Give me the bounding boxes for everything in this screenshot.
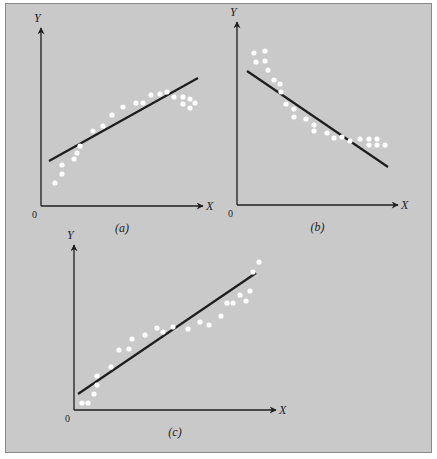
data-point: [129, 336, 134, 341]
data-point: [256, 259, 261, 264]
data-point: [218, 313, 223, 318]
data-point: [291, 106, 296, 111]
plot-c: YX0(c): [65, 228, 287, 439]
data-point: [109, 112, 114, 117]
data-point: [59, 171, 64, 176]
data-point: [59, 162, 64, 167]
data-point: [126, 346, 131, 351]
data-point: [140, 100, 145, 105]
panel-caption: (a): [115, 221, 129, 235]
origin-label: 0: [32, 209, 37, 220]
origin-label: 0: [65, 413, 70, 424]
y-axis-label: Y: [67, 228, 75, 242]
data-point: [79, 400, 84, 405]
panel-caption: (c): [168, 425, 181, 439]
data-point: [331, 135, 336, 140]
data-point: [278, 89, 283, 94]
data-point: [247, 288, 252, 293]
data-point: [180, 94, 185, 99]
data-point: [374, 136, 379, 141]
data-point: [187, 96, 192, 101]
regression-line: [247, 71, 388, 167]
data-point: [90, 128, 95, 133]
data-point: [187, 105, 192, 110]
data-point: [206, 322, 211, 327]
data-point: [71, 156, 76, 161]
data-point: [85, 400, 90, 405]
data-point: [366, 136, 371, 141]
data-point: [120, 104, 125, 109]
data-point: [192, 100, 197, 105]
data-point: [142, 332, 147, 337]
x-axis-label: X: [205, 199, 214, 213]
data-point: [366, 142, 371, 147]
data-point: [160, 329, 165, 334]
data-point: [197, 319, 202, 324]
data-point: [262, 48, 267, 53]
data-point: [324, 130, 329, 135]
panel-caption: (b): [311, 220, 325, 234]
data-point: [339, 134, 344, 139]
data-point: [52, 180, 57, 185]
data-point: [224, 300, 229, 305]
plot-b: YX0(b): [228, 5, 409, 234]
data-point: [265, 67, 270, 72]
scatter-figure: YX0(a) YX0(b) YX0(c): [0, 0, 437, 459]
data-point: [357, 136, 362, 141]
data-point: [133, 100, 138, 105]
regression-line: [49, 78, 198, 161]
y-axis-label: Y: [230, 5, 238, 19]
data-point: [262, 58, 267, 63]
x-axis-label: X: [400, 198, 409, 212]
data-point: [374, 142, 379, 147]
data-point: [253, 59, 258, 64]
data-point: [250, 269, 255, 274]
data-point: [347, 138, 352, 143]
data-point: [180, 101, 185, 106]
data-point: [157, 91, 162, 96]
data-point: [251, 50, 256, 55]
data-point: [100, 123, 105, 128]
x-axis-label: X: [278, 403, 287, 417]
data-point: [243, 298, 248, 303]
data-point: [271, 77, 276, 82]
data-point: [185, 326, 190, 331]
data-point: [283, 101, 288, 106]
data-point: [94, 373, 99, 378]
data-point: [303, 116, 308, 121]
y-axis-label: Y: [34, 11, 42, 25]
data-point: [148, 92, 153, 97]
data-point: [291, 114, 296, 119]
data-point: [116, 347, 121, 352]
data-point: [74, 150, 79, 155]
data-point: [77, 143, 82, 148]
data-point: [170, 324, 175, 329]
data-point: [230, 300, 235, 305]
data-point: [108, 364, 113, 369]
data-point: [311, 122, 316, 127]
origin-label: 0: [228, 208, 233, 219]
data-point: [91, 391, 96, 396]
plot-a: YX0(a): [32, 11, 214, 235]
data-point: [94, 382, 99, 387]
regression-line: [78, 273, 256, 394]
data-point: [164, 89, 169, 94]
data-point: [277, 81, 282, 86]
data-point: [154, 325, 159, 330]
data-point: [171, 94, 176, 99]
data-point: [382, 142, 387, 147]
data-point: [237, 292, 242, 297]
data-point: [311, 128, 316, 133]
